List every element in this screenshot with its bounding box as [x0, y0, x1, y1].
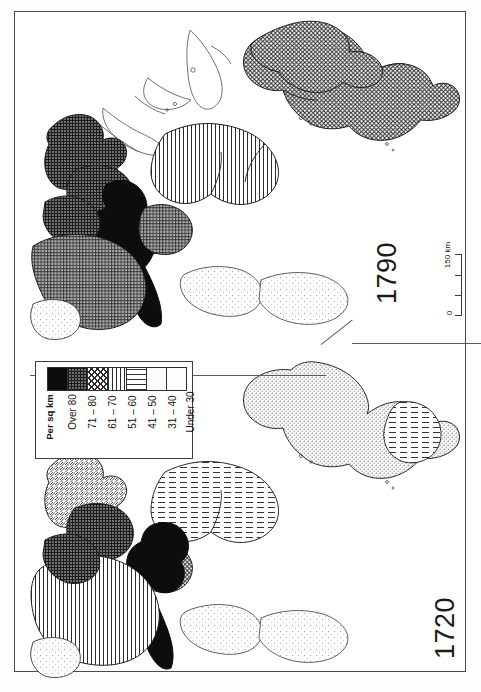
region-fareast-1720: [384, 402, 441, 463]
legend-label-row: Per sq km Over 80 71 – 80 61 – 70 51 – 6…: [36, 392, 194, 458]
region-islands-1720: [180, 605, 348, 663]
scale-bar-tick: [455, 295, 462, 296]
region-southwest-1720: [31, 638, 81, 678]
panel-divider-right: [352, 343, 481, 344]
figure-frame: 1790 1720 0 150 km: [14, 11, 466, 672]
year-text-1790: 1790: [370, 244, 404, 304]
scale-bar-start-label: 0: [439, 306, 461, 320]
panel-year-label-1720: 1720: [415, 612, 475, 646]
scale-bar-axis: [461, 254, 462, 316]
scale-bar-end-label: 150 km: [426, 248, 470, 262]
scale-bar: 0 150 km: [431, 252, 475, 322]
year-text-1720: 1720: [428, 599, 462, 659]
figure-page: 1790 1720 0 150 km: [0, 0, 481, 692]
scale-bar-tick: [455, 275, 462, 276]
legend-label-under-30: Under 30: [165, 402, 217, 422]
map-legend: Per sq km Over 80 71 – 80 61 – 70 51 – 6…: [35, 361, 193, 459]
panel-year-label-1790: 1790: [357, 257, 417, 291]
